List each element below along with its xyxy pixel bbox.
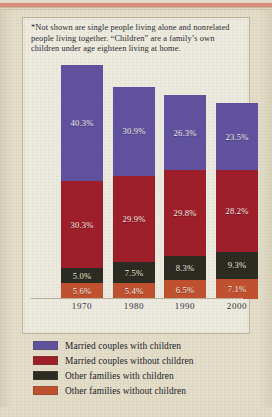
legend-color-swatch [33,356,58,365]
legend-color-swatch [33,341,58,350]
segment-value-label: 8.3% [176,263,195,273]
segment-value-label: 6.5% [176,285,195,295]
segment-value-label: 30.3% [70,220,93,230]
segment-value-label: 29.8% [173,208,196,218]
segment-value-label: 40.3% [70,118,93,128]
stacked-bar-plot: 40.3%30.3%5.0%5.6%30.9%29.9%7.5%5.4%26.3… [23,18,251,335]
legend-label: Married couples without children [65,356,193,366]
segment-value-label: 29.9% [122,214,145,224]
chart-legend: Married couples with childrenMarried cou… [22,338,250,398]
page-left-edge [0,10,13,417]
page-bottom-edge [0,407,272,417]
page-right-edge [259,10,272,417]
legend-item: Married couples without children [22,353,250,368]
segment-value-label: 26.3% [173,128,196,138]
legend-label: Other families without children [65,386,186,396]
bar-1970: 40.3%30.3%5.0%5.6% [61,65,103,299]
bar-segment: 5.4% [113,283,155,299]
segment-value-label: 5.6% [73,286,92,296]
bar-1980: 30.9%29.9%7.5%5.4% [113,87,155,299]
legend-item: Other families without children [22,383,250,398]
year-label-2000: 2000 [216,301,258,311]
page-background: *Not shown are single people living alon… [0,0,272,417]
bar-segment: 8.3% [164,256,206,280]
bar-segment: 6.5% [164,280,206,299]
segment-value-label: 30.9% [122,126,145,136]
top-rule-decoration [0,3,272,7]
bar-segment: 7.1% [216,279,258,299]
year-label-1970: 1970 [61,301,103,311]
bar-segment: 29.9% [113,176,155,262]
bar-segment: 9.3% [216,252,258,279]
legend-label: Other families with children [65,371,174,381]
legend-color-swatch [33,371,58,380]
chart-panel: *Not shown are single people living alon… [22,17,250,334]
bar-segment: 28.2% [216,170,258,251]
segment-value-label: 5.0% [73,271,92,281]
year-label-1990: 1990 [164,301,206,311]
x-axis-tick-labels: 1970198019902000 [23,301,251,317]
legend-item: Other families with children [22,368,250,383]
legend-item: Married couples with children [22,338,250,353]
legend-label: Married couples with children [65,341,181,351]
x-axis-line [31,298,243,299]
bar-segment: 40.3% [61,65,103,181]
bar-segment: 26.3% [164,95,206,171]
legend-color-swatch [33,386,58,395]
bar-segment: 5.6% [61,283,103,299]
bar-segment: 29.8% [164,170,206,256]
segment-value-label: 28.2% [225,206,248,216]
bar-segment: 7.5% [113,262,155,284]
bar-segment: 30.3% [61,181,103,268]
year-label-1980: 1980 [113,301,155,311]
segment-value-label: 23.5% [225,132,248,142]
segment-value-label: 5.4% [125,286,144,296]
segment-value-label: 9.3% [228,260,247,270]
top-rule-secondary [0,9,272,10]
segment-value-label: 7.1% [228,284,247,294]
bar-segment: 5.0% [61,268,103,282]
bar-segment: 23.5% [216,103,258,171]
bar-1990: 26.3%29.8%8.3%6.5% [164,95,206,299]
bar-2000: 23.5%28.2%9.3%7.1% [216,103,258,299]
bar-segment: 30.9% [113,87,155,176]
segment-value-label: 7.5% [125,268,144,278]
